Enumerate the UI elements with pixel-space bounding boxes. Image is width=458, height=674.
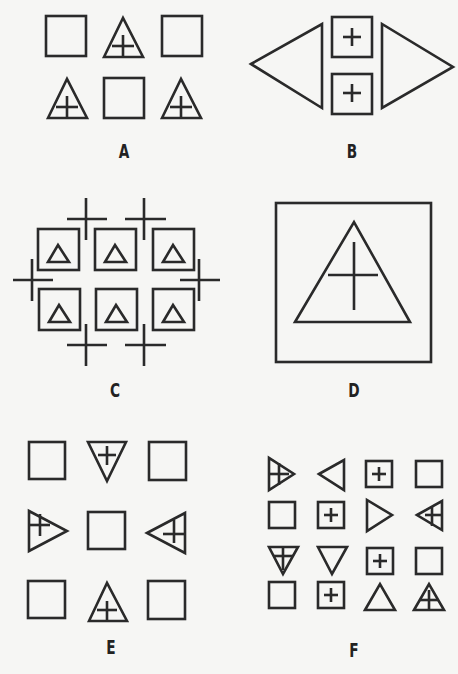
panel-d[interactable]	[276, 203, 431, 362]
label-d: D	[340, 379, 369, 401]
figure-options	[0, 0, 458, 674]
panel-a[interactable]	[46, 16, 202, 118]
label-c: C	[101, 379, 130, 401]
panel-e[interactable]	[28, 442, 186, 621]
panel-c[interactable]	[13, 198, 220, 366]
label-b: B	[338, 140, 367, 162]
label-e: E	[97, 636, 126, 658]
panel-f[interactable]	[269, 458, 444, 610]
panel-b[interactable]	[251, 17, 453, 114]
label-f: F	[340, 639, 369, 661]
label-a: A	[110, 140, 139, 162]
